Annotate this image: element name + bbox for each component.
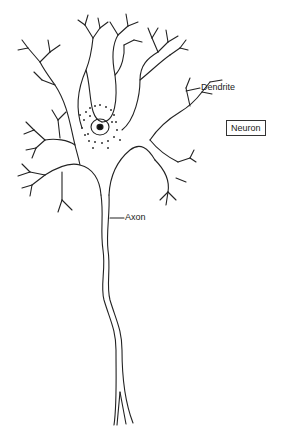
axon-label: Axon xyxy=(125,212,146,222)
soma-outline xyxy=(40,35,202,195)
axon-shape xyxy=(101,195,133,425)
neuron-title-box: Neuron xyxy=(226,120,266,136)
dendrite-branches xyxy=(18,14,222,212)
dendrite-leader-line xyxy=(186,88,200,91)
dendrite-label: Dendrite xyxy=(201,82,235,92)
